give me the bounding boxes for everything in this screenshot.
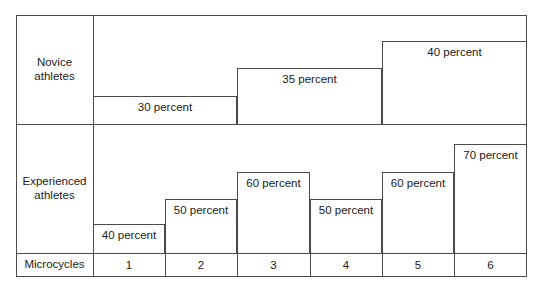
microcycle-tick-6: 6 — [454, 253, 527, 277]
bar-novice-3: 40 percent — [382, 41, 527, 125]
bar-experienced-6: 70 percent — [454, 144, 527, 254]
row-label-novice-line1: Novice — [34, 56, 74, 70]
row-label-experienced-line2: athletes — [23, 189, 87, 203]
row-label-novice-line2: athletes — [34, 70, 74, 84]
row-label-novice: Novice athletes — [16, 15, 93, 124]
row-label-experienced: Experienced athletes — [16, 124, 93, 253]
microcycle-tick-3: 3 — [237, 253, 310, 277]
bar-experienced-4: 50 percent — [310, 199, 382, 254]
microcycle-tick-4: 4 — [310, 253, 382, 277]
microcycle-tick-1: 1 — [93, 253, 165, 277]
bar-experienced-5: 60 percent — [382, 172, 454, 254]
microcycle-tick-5: 5 — [382, 253, 454, 277]
bar-experienced-3: 60 percent — [237, 172, 310, 254]
microcycle-tick-2: 2 — [165, 253, 237, 277]
bar-novice-2: 35 percent — [237, 68, 382, 125]
loading-chart: Novice athletes 30 percent 35 percent 40… — [0, 0, 543, 294]
row-label-microcycles: Microcycles — [16, 253, 93, 277]
bar-novice-1: 30 percent — [93, 96, 237, 125]
row-label-experienced-line1: Experienced — [23, 175, 87, 189]
bar-experienced-1: 40 percent — [93, 224, 165, 254]
bar-experienced-2: 50 percent — [165, 199, 237, 254]
